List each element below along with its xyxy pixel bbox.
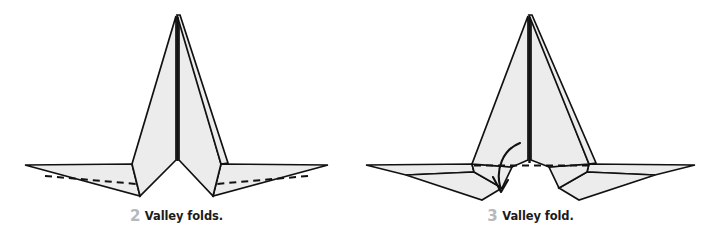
- instruction-sheet: 2Valley folds.: [0, 0, 707, 246]
- origami-figure-step-3: [354, 0, 707, 205]
- origami-figure-step-2: [0, 0, 353, 205]
- step-panel-3: 3Valley fold.: [354, 0, 707, 246]
- body-left-panel: [132, 16, 176, 196]
- step-panel-2: 2Valley folds.: [0, 0, 353, 246]
- caption-step-3: 3Valley fold.: [354, 207, 707, 224]
- step-caption-text-2: Valley folds.: [145, 209, 223, 223]
- step-number-3: 3: [487, 207, 498, 225]
- step-number-2: 2: [130, 207, 141, 225]
- caption-step-2: 2Valley folds.: [0, 207, 353, 224]
- body-left-panel: [472, 16, 528, 167]
- step-caption-text-3: Valley fold.: [502, 209, 573, 223]
